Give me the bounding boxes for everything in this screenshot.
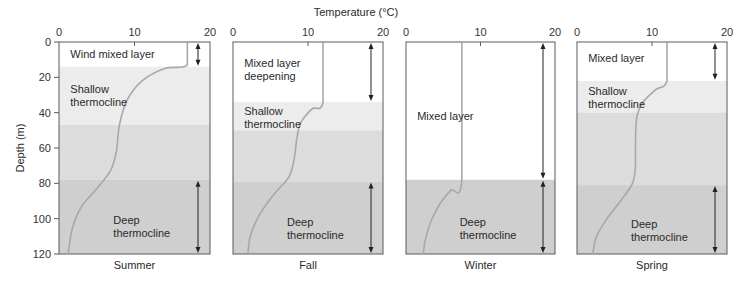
x-tick-label: 20 xyxy=(204,26,216,38)
y-tick-label: 0 xyxy=(45,36,51,48)
y-tick-label: 120 xyxy=(33,248,51,260)
x-tick-label: 10 xyxy=(302,26,314,38)
region-band xyxy=(577,113,727,185)
region-label: Wind mixed layer xyxy=(70,48,155,60)
region-band xyxy=(59,125,210,180)
region-label: Mixed layer xyxy=(588,52,645,64)
y-axis-title: Depth (m) xyxy=(14,124,26,173)
y-tick-label: 20 xyxy=(39,71,51,83)
thermocline-seasonal-figure: Temperature (°C) Depth (m) 0204060801001… xyxy=(0,0,749,283)
region-label: Mixed layer xyxy=(417,110,474,122)
season-label: Winter xyxy=(465,259,497,271)
x-tick-label: 0 xyxy=(574,26,580,38)
x-tick-label: 0 xyxy=(230,26,236,38)
x-tick-label: 10 xyxy=(128,26,140,38)
y-tick-label: 40 xyxy=(39,107,51,119)
region-label: Mixed layerdeepening xyxy=(244,57,301,82)
panel-summer: 01020Wind mixed layerShallowthermoclineD… xyxy=(56,26,216,271)
y-tick-label: 60 xyxy=(39,142,51,154)
season-label: Summer xyxy=(114,259,156,271)
y-tick-label: 100 xyxy=(33,213,51,225)
depth-axis: 020406080100120 xyxy=(33,36,59,260)
x-tick-label: 0 xyxy=(403,26,409,38)
panel-spring: 01020Mixed layerShallowthermoclineDeepth… xyxy=(574,26,733,271)
season-panels: 01020Wind mixed layerShallowthermoclineD… xyxy=(56,26,733,271)
x-tick-label: 20 xyxy=(377,26,389,38)
x-axis-title: Temperature (°C) xyxy=(314,6,398,18)
x-tick-label: 0 xyxy=(56,26,62,38)
season-label: Spring xyxy=(636,259,668,271)
season-label: Fall xyxy=(299,259,317,271)
seasonal-temperature-profiles-chart: Temperature (°C) Depth (m) 0204060801001… xyxy=(0,0,749,283)
x-tick-label: 10 xyxy=(646,26,658,38)
x-tick-label: 10 xyxy=(474,26,486,38)
y-tick-label: 80 xyxy=(39,177,51,189)
x-tick-label: 20 xyxy=(721,26,733,38)
region-band xyxy=(233,130,383,181)
x-tick-label: 20 xyxy=(549,26,561,38)
panel-fall: 01020Mixed layerdeepeningShallowthermocl… xyxy=(230,26,389,271)
panel-winter: 01020Mixed layerDeepthermoclineWinter xyxy=(403,26,561,271)
